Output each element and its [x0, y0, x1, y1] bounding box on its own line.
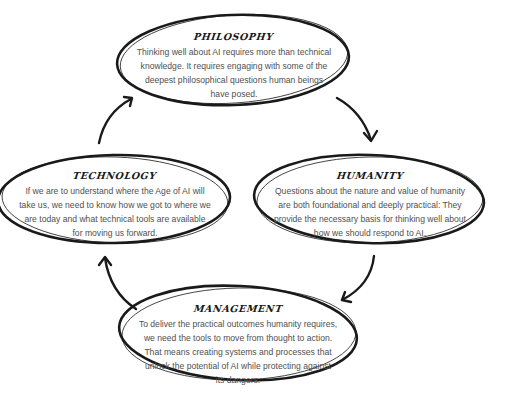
node-description: To deliver the practical outcomes humani… — [120, 317, 356, 387]
node-title: Technology — [72, 170, 157, 181]
description-line: are both foundational and deeply practic… — [255, 198, 485, 212]
node-description: Thinking well about AI requires more tha… — [118, 45, 350, 101]
description-line: knowledge. It requires engaging with som… — [118, 59, 350, 73]
description-line: for moving us forward. — [0, 226, 230, 240]
node-title: Philosophy — [193, 31, 274, 42]
description-line: have posed. — [118, 87, 350, 101]
description-line: take us, we need to know how we got to w… — [0, 198, 230, 212]
description-line: That means creating systems and processe… — [120, 345, 356, 359]
node-description: Questions about the nature and value of … — [255, 184, 485, 240]
node-title: Management — [193, 303, 283, 314]
description-line: If we are to understand where the Age of… — [0, 184, 230, 198]
description-line: To deliver the practical outcomes humani… — [120, 317, 356, 331]
description-line: are today and what technical tools are a… — [0, 212, 230, 226]
arrow-technology-to-philosophy — [99, 97, 132, 143]
node-humanity: Humanity Questions about the nature and … — [255, 165, 485, 240]
arrow-philosophy-to-humanity — [337, 98, 377, 141]
description-line: its dangers. — [120, 373, 356, 387]
description-line: we need the tools to move from thought t… — [120, 331, 356, 345]
description-line: Thinking well about AI requires more tha… — [118, 45, 350, 59]
node-title: Humanity — [336, 170, 404, 181]
description-line: provide the necessary basis for thinking… — [255, 212, 485, 226]
node-description: If we are to understand where the Age of… — [0, 184, 230, 240]
description-line: deepest philosophical questions human be… — [118, 73, 350, 87]
description-line: how we should respond to AI. — [255, 226, 485, 240]
description-line: unlock the potential of AI while protect… — [120, 359, 356, 373]
node-technology: Technology If we are to understand where… — [0, 165, 230, 240]
node-philosophy: Philosophy Thinking well about AI requir… — [118, 26, 350, 101]
description-line: Questions about the nature and value of … — [255, 184, 485, 198]
node-management: Management To deliver the practical outc… — [120, 298, 356, 387]
arrow-humanity-to-management — [342, 256, 374, 302]
